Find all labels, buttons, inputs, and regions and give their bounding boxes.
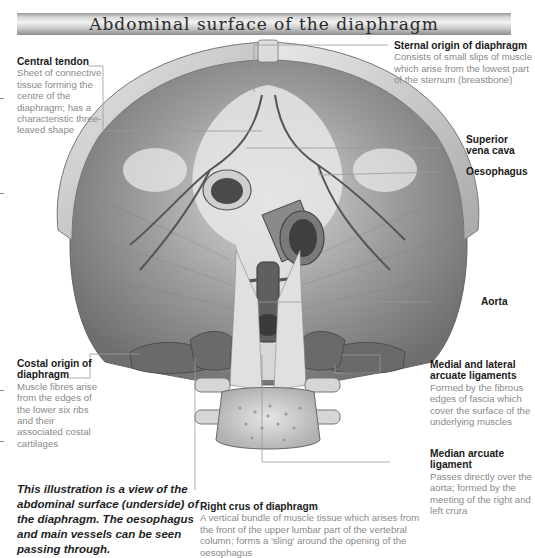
label-body: Formed by the fibrous edges of fascia wh… [430, 382, 532, 428]
label-right-crus: Right crus of diaphragm A vertical bundl… [200, 501, 425, 558]
label-median-arcuate-ligament: Median arcuate ligament Passes directly … [430, 448, 532, 516]
label-heading: Medial and lateral arcuate ligaments [430, 359, 532, 382]
label-heading: Right crus of diaphragm [200, 501, 425, 512]
figure-caption: This illustration is a view of the abdom… [17, 482, 207, 557]
label-body: Passes directly over the aorta; formed b… [430, 471, 532, 517]
label-heading: Median arcuate ligament [430, 448, 532, 471]
label-costal-origin: Costal origin of diaphragm Muscle fibres… [17, 358, 97, 449]
label-superior-vena-cava: Superior vena cava [466, 134, 531, 157]
label-body: Muscle fibres arise from the edges of th… [17, 381, 97, 449]
label-body: Consists of small slips of muscle which … [394, 51, 534, 85]
label-central-tendon: Central tendon Sheet of connective tissu… [17, 56, 107, 136]
edge-mark [0, 441, 4, 442]
vertebra [195, 378, 340, 449]
edge-mark [0, 390, 4, 391]
label-aorta: Aorta [481, 296, 531, 307]
edge-mark [0, 193, 4, 194]
label-heading: Sternal origin of diaphragm [394, 40, 534, 51]
label-arcuate-ligaments: Medial and lateral arcuate ligaments For… [430, 359, 532, 427]
label-body: A vertical bundle of muscle tissue which… [200, 512, 425, 558]
vena-cava-opening [203, 170, 251, 210]
label-heading: Oesophagus [466, 166, 535, 177]
edge-mark [0, 98, 4, 99]
label-body: Sheet of connective tissue forming the c… [17, 67, 107, 135]
label-sternal-origin: Sternal origin of diaphragm Consists of … [394, 40, 534, 86]
label-heading: Costal origin of diaphragm [17, 358, 97, 381]
label-heading: Aorta [481, 296, 531, 307]
label-heading: Superior vena cava [466, 134, 531, 157]
label-heading: Central tendon [17, 56, 107, 67]
label-oesophagus: Oesophagus [466, 166, 535, 177]
